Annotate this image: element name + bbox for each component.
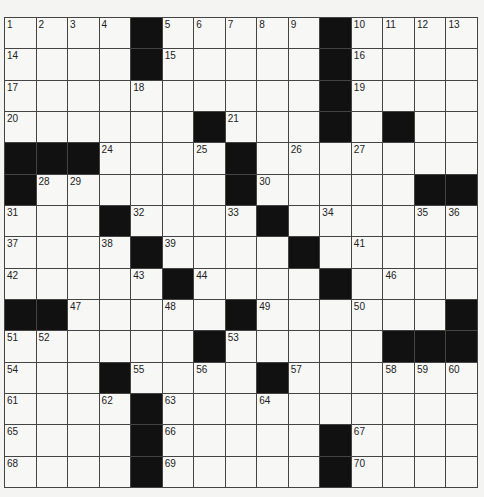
crossword-cell[interactable] xyxy=(68,81,99,111)
crossword-cell[interactable] xyxy=(446,81,477,111)
crossword-cell[interactable] xyxy=(68,49,99,79)
crossword-cell[interactable] xyxy=(257,237,288,267)
crossword-cell[interactable]: 26 xyxy=(289,143,320,173)
crossword-cell[interactable]: 58 xyxy=(383,363,414,393)
crossword-cell[interactable] xyxy=(446,237,477,267)
crossword-cell[interactable]: 25 xyxy=(194,143,225,173)
crossword-cell[interactable]: 1 xyxy=(5,18,36,48)
crossword-cell[interactable] xyxy=(289,206,320,236)
crossword-cell[interactable] xyxy=(257,269,288,299)
crossword-cell[interactable]: 44 xyxy=(194,269,225,299)
crossword-cell[interactable] xyxy=(446,49,477,79)
crossword-cell[interactable] xyxy=(163,363,194,393)
crossword-cell[interactable]: 37 xyxy=(5,237,36,267)
crossword-cell[interactable] xyxy=(383,394,414,424)
crossword-cell[interactable] xyxy=(320,175,351,205)
crossword-cell[interactable]: 50 xyxy=(352,300,383,330)
crossword-cell[interactable] xyxy=(226,237,257,267)
crossword-cell[interactable]: 66 xyxy=(163,425,194,455)
crossword-cell[interactable] xyxy=(100,81,131,111)
crossword-cell[interactable]: 5 xyxy=(163,18,194,48)
crossword-cell[interactable] xyxy=(320,143,351,173)
crossword-cell[interactable]: 41 xyxy=(352,237,383,267)
crossword-cell[interactable] xyxy=(37,237,68,267)
crossword-cell[interactable]: 18 xyxy=(131,81,162,111)
crossword-cell[interactable] xyxy=(257,331,288,361)
crossword-cell[interactable] xyxy=(352,112,383,142)
crossword-cell[interactable] xyxy=(383,143,414,173)
crossword-cell[interactable] xyxy=(100,49,131,79)
crossword-cell[interactable]: 36 xyxy=(446,206,477,236)
crossword-cell[interactable]: 7 xyxy=(226,18,257,48)
crossword-cell[interactable]: 31 xyxy=(5,206,36,236)
crossword-cell[interactable] xyxy=(163,206,194,236)
crossword-cell[interactable] xyxy=(68,457,99,487)
crossword-cell[interactable] xyxy=(194,457,225,487)
crossword-cell[interactable] xyxy=(289,49,320,79)
crossword-cell[interactable]: 15 xyxy=(163,49,194,79)
crossword-cell[interactable] xyxy=(446,457,477,487)
crossword-cell[interactable] xyxy=(257,143,288,173)
crossword-cell[interactable]: 52 xyxy=(37,331,68,361)
crossword-cell[interactable] xyxy=(289,175,320,205)
crossword-cell[interactable]: 6 xyxy=(194,18,225,48)
crossword-cell[interactable]: 30 xyxy=(257,175,288,205)
crossword-cell[interactable] xyxy=(226,49,257,79)
crossword-cell[interactable] xyxy=(257,457,288,487)
crossword-cell[interactable]: 55 xyxy=(131,363,162,393)
crossword-cell[interactable] xyxy=(100,300,131,330)
crossword-cell[interactable]: 46 xyxy=(383,269,414,299)
crossword-cell[interactable]: 64 xyxy=(257,394,288,424)
crossword-cell[interactable] xyxy=(68,112,99,142)
crossword-cell[interactable]: 35 xyxy=(415,206,446,236)
crossword-cell[interactable] xyxy=(415,394,446,424)
crossword-cell[interactable] xyxy=(289,269,320,299)
crossword-cell[interactable] xyxy=(415,300,446,330)
crossword-cell[interactable] xyxy=(383,425,414,455)
crossword-cell[interactable]: 43 xyxy=(131,269,162,299)
crossword-cell[interactable] xyxy=(446,269,477,299)
crossword-cell[interactable] xyxy=(352,394,383,424)
crossword-cell[interactable]: 61 xyxy=(5,394,36,424)
crossword-cell[interactable] xyxy=(446,112,477,142)
crossword-cell[interactable] xyxy=(320,237,351,267)
crossword-cell[interactable]: 42 xyxy=(5,269,36,299)
crossword-cell[interactable]: 17 xyxy=(5,81,36,111)
crossword-cell[interactable]: 39 xyxy=(163,237,194,267)
crossword-cell[interactable] xyxy=(226,363,257,393)
crossword-cell[interactable]: 28 xyxy=(37,175,68,205)
crossword-cell[interactable] xyxy=(352,175,383,205)
crossword-cell[interactable] xyxy=(194,237,225,267)
crossword-cell[interactable] xyxy=(194,206,225,236)
crossword-cell[interactable] xyxy=(131,175,162,205)
crossword-cell[interactable]: 3 xyxy=(68,18,99,48)
crossword-cell[interactable] xyxy=(226,81,257,111)
crossword-cell[interactable]: 20 xyxy=(5,112,36,142)
crossword-cell[interactable] xyxy=(163,143,194,173)
crossword-cell[interactable] xyxy=(415,143,446,173)
crossword-cell[interactable] xyxy=(383,175,414,205)
crossword-cell[interactable] xyxy=(352,206,383,236)
crossword-cell[interactable] xyxy=(383,81,414,111)
crossword-cell[interactable]: 53 xyxy=(226,331,257,361)
crossword-cell[interactable] xyxy=(37,206,68,236)
crossword-cell[interactable]: 32 xyxy=(131,206,162,236)
crossword-cell[interactable]: 56 xyxy=(194,363,225,393)
crossword-cell[interactable] xyxy=(100,425,131,455)
crossword-cell[interactable]: 69 xyxy=(163,457,194,487)
crossword-cell[interactable]: 54 xyxy=(5,363,36,393)
crossword-cell[interactable]: 10 xyxy=(352,18,383,48)
crossword-cell[interactable]: 57 xyxy=(289,363,320,393)
crossword-cell[interactable] xyxy=(37,49,68,79)
crossword-cell[interactable] xyxy=(289,425,320,455)
crossword-cell[interactable] xyxy=(100,457,131,487)
crossword-cell[interactable] xyxy=(226,394,257,424)
crossword-cell[interactable] xyxy=(383,206,414,236)
crossword-cell[interactable] xyxy=(446,425,477,455)
crossword-cell[interactable]: 8 xyxy=(257,18,288,48)
crossword-cell[interactable] xyxy=(289,457,320,487)
crossword-cell[interactable] xyxy=(100,331,131,361)
crossword-cell[interactable] xyxy=(289,331,320,361)
crossword-cell[interactable] xyxy=(131,143,162,173)
crossword-cell[interactable] xyxy=(163,112,194,142)
